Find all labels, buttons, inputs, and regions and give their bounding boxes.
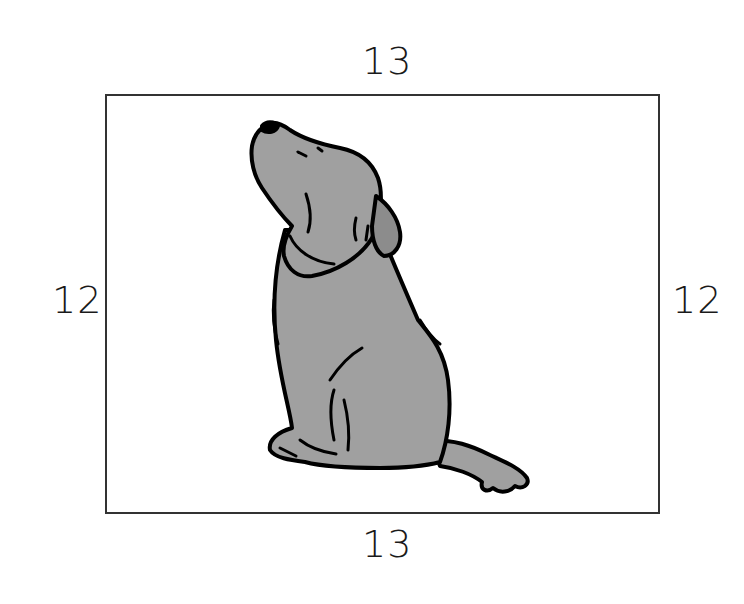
dog-icon [0,0,744,604]
